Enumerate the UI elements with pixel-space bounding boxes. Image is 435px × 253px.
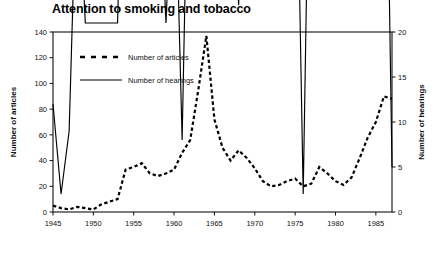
series-line-dashed bbox=[53, 36, 392, 210]
left-axis-tick-label: 120 bbox=[34, 53, 47, 62]
left-axis-tick-label: 0 bbox=[43, 208, 47, 217]
left-axis-tick-label: 140 bbox=[34, 28, 47, 37]
chart-figure: Attention to smoking and tobacco 0204060… bbox=[0, 0, 435, 253]
x-axis-tick-label: 1955 bbox=[125, 219, 142, 228]
x-axis-tick-label: 1980 bbox=[327, 219, 344, 228]
left-axis-title: Number of articles bbox=[9, 86, 18, 157]
chart-plot-area: 0204060801001201400510152019451950195519… bbox=[0, 0, 435, 253]
right-axis-tick-label: 10 bbox=[398, 118, 406, 127]
x-axis-tick-label: 1975 bbox=[287, 219, 304, 228]
right-axis-title: Number of hearings bbox=[417, 84, 426, 160]
left-axis-tick-label: 20 bbox=[39, 182, 47, 191]
x-axis-tick-label: 1970 bbox=[246, 219, 263, 228]
x-axis-tick-label: 1960 bbox=[166, 219, 183, 228]
right-axis-tick-label: 15 bbox=[398, 73, 406, 82]
right-axis-tick-label: 5 bbox=[398, 163, 402, 172]
series-line-solid bbox=[53, 0, 392, 194]
x-axis-tick-label: 1985 bbox=[368, 219, 385, 228]
x-axis-tick-label: 1965 bbox=[206, 219, 223, 228]
legend-label-hearings: Number of hearings bbox=[128, 76, 194, 85]
left-axis-tick-label: 60 bbox=[39, 131, 47, 140]
x-axis-tick-label: 1950 bbox=[85, 219, 102, 228]
left-axis-tick-label: 80 bbox=[39, 105, 47, 114]
right-axis-tick-label: 20 bbox=[398, 28, 406, 37]
left-axis-tick-label: 40 bbox=[39, 156, 47, 165]
left-axis-tick-label: 100 bbox=[34, 79, 47, 88]
right-axis-tick-label: 0 bbox=[398, 208, 402, 217]
x-axis-tick-label: 1945 bbox=[45, 219, 62, 228]
legend-label-articles: Number of articles bbox=[128, 53, 189, 62]
